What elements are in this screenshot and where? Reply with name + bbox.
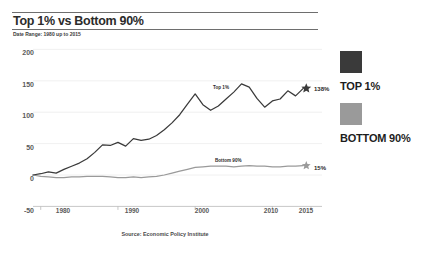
inline-label-top-1: Top 1% (213, 85, 229, 90)
x-tick-label-2000: 2000 (187, 207, 217, 215)
y-tick-label-neg50: -50 (8, 207, 34, 215)
legend-panel: TOP 1% BOTTOM 90% NOTE: Cumulative growt… (330, 0, 448, 255)
series-line-top-1 (33, 84, 303, 175)
source-attribution: Source: Economic Policy Institute (0, 231, 330, 237)
y-tick-label-0: 0 (8, 175, 34, 183)
series-line-bottom-90 (33, 166, 303, 178)
legend-label-top-1: TOP 1% (340, 80, 380, 92)
x-tick-label-2015: 2015 (291, 207, 321, 215)
y-tick-label-150: 150 (8, 81, 34, 89)
chart-screenshot: Top 1% vs Bottom 90% Date Range: 1980 up… (0, 0, 448, 255)
plot-area: 200 150 100 50 0 -50 1980 1990 2000 2010… (0, 0, 330, 255)
legend-label-bottom-90: BOTTOM 90% (340, 132, 411, 144)
inline-label-bottom-90: Bottom 90% (215, 158, 242, 163)
plot-svg (0, 0, 330, 255)
star-marker-bottom-90 (302, 161, 311, 169)
end-value-bottom-90: 15% (314, 165, 326, 171)
y-tick-label-200: 200 (8, 49, 34, 57)
legend-swatch-top-1 (340, 51, 362, 73)
x-tick-label-1990: 1990 (117, 207, 147, 215)
end-value-top-1: 138% (314, 86, 329, 92)
star-marker-top-1 (301, 83, 311, 92)
chart-panel: Top 1% vs Bottom 90% Date Range: 1980 up… (0, 0, 330, 255)
gridlines (33, 49, 322, 206)
y-tick-label-50: 50 (8, 144, 34, 152)
x-tick-label-2010: 2010 (256, 207, 286, 215)
x-tick-label-1980: 1980 (48, 207, 78, 215)
y-tick-label-100: 100 (8, 112, 34, 120)
legend-swatch-bottom-90 (340, 103, 362, 125)
